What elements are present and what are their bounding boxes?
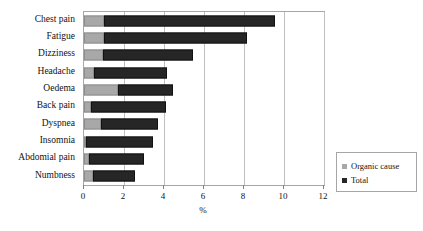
x-axis-tick	[163, 185, 164, 189]
category-label: Oedema	[0, 80, 79, 97]
bar-segment-total	[89, 154, 144, 165]
category-label: Dyspnea	[0, 115, 79, 132]
bar-segment-organic-cause	[84, 50, 103, 61]
legend-label: Total	[351, 175, 368, 185]
bar-row	[84, 81, 324, 98]
x-axis-tick-label: 2	[121, 190, 126, 203]
y-axis-category-labels: Chest painFatigueDizzinessHeadacheOedema…	[0, 11, 79, 184]
bar-segment-organic-cause	[84, 15, 104, 26]
bar-stack	[84, 171, 135, 182]
legend-item: Organic cause	[342, 159, 416, 173]
legend-swatch-icon	[342, 164, 347, 169]
x-axis-tick-labels: 024681012	[83, 190, 323, 203]
bar-segment-organic-cause	[84, 119, 101, 130]
x-axis-tick	[323, 185, 324, 189]
bar-segment-total	[118, 84, 173, 95]
bar-row	[84, 116, 324, 133]
plot-area	[83, 11, 325, 186]
bar-series-group	[84, 12, 324, 185]
gridline	[324, 12, 325, 185]
category-label: Numbness	[0, 167, 79, 184]
bar-segment-organic-cause	[84, 32, 104, 43]
bar-segment-total	[94, 67, 167, 78]
x-axis-tick-label: 0	[81, 190, 86, 203]
bar-row	[84, 64, 324, 81]
bar-row	[84, 150, 324, 167]
bar-stack	[84, 84, 173, 95]
bar-segment-total	[91, 102, 166, 113]
category-label: Insomnia	[0, 132, 79, 149]
bar-stack	[84, 136, 153, 147]
bar-stack	[84, 50, 193, 61]
bar-segment-total	[103, 50, 193, 61]
bar-row	[84, 98, 324, 115]
bar-row	[84, 47, 324, 64]
category-label: Abdomial pain	[0, 149, 79, 166]
bar-segment-organic-cause	[84, 171, 93, 182]
x-axis-tick-label: 10	[279, 190, 288, 203]
x-axis-tick-label: 8	[241, 190, 246, 203]
bar-stack	[84, 15, 275, 26]
x-axis-tick-label: 4	[161, 190, 166, 203]
bar-segment-total	[104, 32, 247, 43]
bar-stack	[84, 154, 144, 165]
x-axis-tick	[243, 185, 244, 189]
x-axis-tick	[123, 185, 124, 189]
category-label: Dizziness	[0, 46, 79, 63]
category-label: Chest pain	[0, 11, 79, 28]
bar-segment-organic-cause	[84, 102, 91, 113]
legend-label: Organic cause	[351, 161, 399, 171]
category-label: Back pain	[0, 97, 79, 114]
bar-row	[84, 168, 324, 185]
bar-segment-total	[101, 119, 158, 130]
bar-row	[84, 29, 324, 46]
bar-stack	[84, 67, 167, 78]
x-axis-tick-label: 12	[319, 190, 328, 203]
bar-stack	[84, 32, 247, 43]
x-axis-title: %	[83, 205, 323, 215]
x-axis-tick	[203, 185, 204, 189]
legend-swatch-icon	[342, 178, 347, 183]
legend-item: Total	[342, 173, 416, 187]
category-label: Fatigue	[0, 28, 79, 45]
bar-segment-organic-cause	[84, 67, 94, 78]
bar-segment-organic-cause	[84, 84, 118, 95]
bar-row	[84, 133, 324, 150]
x-axis-tick-marks	[83, 185, 323, 189]
bar-segment-total	[104, 15, 275, 26]
symptom-frequency-bar-chart: Chest painFatigueDizzinessHeadacheOedema…	[0, 0, 423, 231]
chart-legend: Organic causeTotal	[336, 152, 417, 192]
x-axis-tick-label: 6	[201, 190, 206, 203]
category-label: Headache	[0, 63, 79, 80]
x-axis-tick	[83, 185, 84, 189]
bar-segment-total	[93, 171, 135, 182]
bar-segment-total	[86, 136, 153, 147]
bar-row	[84, 12, 324, 29]
bar-stack	[84, 102, 166, 113]
x-axis-tick	[283, 185, 284, 189]
bar-stack	[84, 119, 158, 130]
